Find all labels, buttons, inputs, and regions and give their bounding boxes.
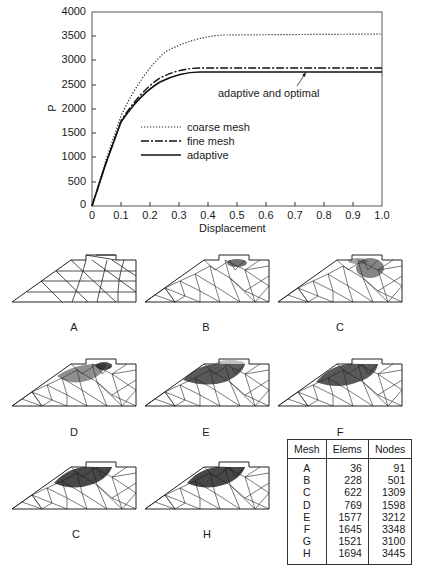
cell-mesh: D xyxy=(288,499,327,511)
table-row: H16943445 xyxy=(288,547,412,564)
mesh-label-C: C xyxy=(330,321,350,333)
legend-item-adaptive: adaptive xyxy=(141,149,229,161)
table-header-row: Mesh Elems Nodes xyxy=(288,440,412,459)
table-row: F16453348 xyxy=(288,523,412,535)
legend-item-coarse: coarse mesh xyxy=(141,121,250,133)
cell-nodes: 501 xyxy=(368,474,411,486)
legend-label: adaptive xyxy=(187,149,229,161)
mesh-F xyxy=(278,359,402,406)
mesh-label-F: F xyxy=(330,426,350,438)
mesh-label-A: A xyxy=(64,321,84,333)
cell-elems: 1521 xyxy=(326,535,368,547)
mesh-statistics-table: Mesh Elems Nodes A3691 B228501 C6221309 … xyxy=(287,439,412,565)
solid-line-icon xyxy=(141,152,181,158)
mesh-label-D: D xyxy=(64,426,84,438)
cell-nodes: 3445 xyxy=(368,547,411,564)
cell-elems: 1577 xyxy=(326,511,368,523)
mesh-H xyxy=(145,462,269,509)
mesh-D xyxy=(12,359,136,406)
mesh-C xyxy=(278,255,402,302)
cell-mesh: E xyxy=(288,511,327,523)
cell-nodes: 3348 xyxy=(368,523,411,535)
dotted-line-icon xyxy=(141,124,181,130)
cell-elems: 1645 xyxy=(326,523,368,535)
mesh-label-E: E xyxy=(196,426,216,438)
cell-mesh: C xyxy=(288,486,327,498)
legend-item-fine: fine mesh xyxy=(141,135,235,147)
header-mesh: Mesh xyxy=(288,440,327,459)
cell-nodes: 3212 xyxy=(368,511,411,523)
cell-nodes: 1309 xyxy=(368,486,411,498)
dash-dot-line-icon xyxy=(141,138,181,144)
header-elems: Elems xyxy=(326,440,368,459)
cell-elems: 228 xyxy=(326,474,368,486)
coarse-mesh-curve xyxy=(92,34,382,206)
header-nodes: Nodes xyxy=(368,440,411,459)
cell-nodes: 1598 xyxy=(368,499,411,511)
cell-mesh: A xyxy=(288,459,327,475)
legend-label: fine mesh xyxy=(187,135,235,147)
cell-elems: 1694 xyxy=(326,547,368,564)
cell-mesh: B xyxy=(288,474,327,486)
mesh-label-B: B xyxy=(196,321,216,333)
mesh-E xyxy=(145,359,269,406)
mesh-label-G: C xyxy=(66,528,86,540)
table-row: B228501 xyxy=(288,474,412,486)
cell-elems: 622 xyxy=(326,486,368,498)
annotation-label: adaptive and optimal xyxy=(218,87,320,99)
cell-nodes: 3100 xyxy=(368,535,411,547)
table-row: E15773212 xyxy=(288,511,412,523)
cell-mesh: H xyxy=(288,547,327,564)
table-row: C6221309 xyxy=(288,486,412,498)
cell-elems: 769 xyxy=(326,499,368,511)
mesh-G xyxy=(12,462,136,509)
cell-nodes: 91 xyxy=(368,459,411,475)
legend-label: coarse mesh xyxy=(187,121,250,133)
cell-mesh: F xyxy=(288,523,327,535)
table-row: A3691 xyxy=(288,459,412,475)
plot-area xyxy=(0,0,429,230)
mesh-A xyxy=(12,255,136,302)
table-row: D7691598 xyxy=(288,499,412,511)
table-row: G15213100 xyxy=(288,535,412,547)
cell-mesh: G xyxy=(288,535,327,547)
cell-elems: 36 xyxy=(326,459,368,475)
mesh-label-H: H xyxy=(197,528,217,540)
mesh-B xyxy=(145,255,269,302)
